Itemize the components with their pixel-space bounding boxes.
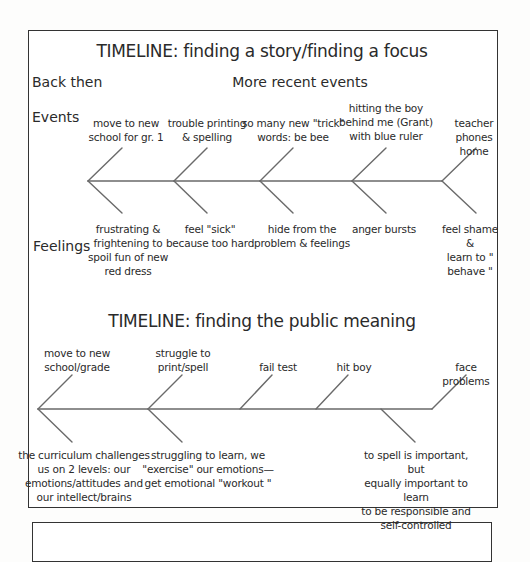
public-meaning-1: the curriculum challenges us on 2 levels… xyxy=(18,448,149,504)
public-event-3: fail test xyxy=(259,360,297,374)
story-event-5: teacher phones home xyxy=(446,116,502,158)
public-event-2: struggle to print/spell xyxy=(156,346,211,374)
story-event-4: hitting the boy behind me (Grant) with b… xyxy=(339,101,433,143)
public-timeline-title: TIMELINE: finding the public meaning xyxy=(108,311,415,331)
more-recent-events-label: More recent events xyxy=(232,74,368,90)
story-event-2: trouble printing & spelling xyxy=(168,116,246,144)
story-feeling-5: feel shame & learn to " behave " xyxy=(440,222,500,278)
story-event-3: so many new "trick" words: be bee xyxy=(242,116,344,144)
story-event-1: move to new school for gr. 1 xyxy=(89,116,164,144)
feelings-row-label: Feelings xyxy=(33,238,90,254)
back-then-label: Back then xyxy=(32,74,102,90)
public-event-5: face problems xyxy=(434,360,498,388)
story-timeline-title: TIMELINE: finding a story/finding a focu… xyxy=(96,41,427,61)
public-event-1: move to new school/grade xyxy=(44,346,110,374)
story-feeling-1: frustrating & frightening to spoil fun o… xyxy=(88,222,168,278)
story-feeling-4: anger bursts xyxy=(352,222,416,236)
public-event-4: hit boy xyxy=(337,360,372,374)
public-meaning-3: to spell is important, but equally impor… xyxy=(359,448,473,532)
story-feeling-3: hide from the problem & feelings xyxy=(254,222,350,250)
events-row-label: Events xyxy=(32,109,79,125)
story-feeling-2: feel "sick" because too hard xyxy=(166,222,254,250)
public-meaning-2: struggling to learn, we "exercise" our e… xyxy=(142,448,273,490)
